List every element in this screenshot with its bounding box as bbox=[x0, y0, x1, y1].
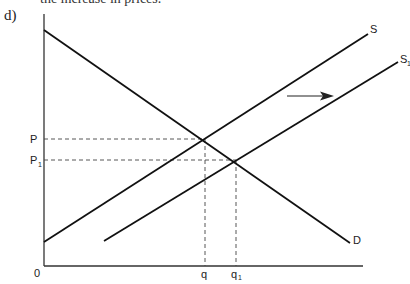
supply-s-label: S bbox=[370, 23, 377, 35]
supply-demand-diagram: 0 P P 1 q q 1 S S 1 D bbox=[0, 0, 410, 284]
quantity-q-label: q bbox=[201, 268, 207, 280]
quantity-q1-label: q bbox=[231, 268, 237, 280]
quantity-q1-subscript: 1 bbox=[238, 274, 242, 281]
shift-arrow-icon bbox=[287, 92, 334, 101]
price-p1-subscript: 1 bbox=[38, 161, 42, 168]
demand-curve bbox=[44, 30, 350, 243]
origin-label: 0 bbox=[34, 267, 40, 279]
price-p-label: P bbox=[30, 133, 37, 145]
price-p1-label: P bbox=[30, 154, 37, 166]
demand-d-label: D bbox=[353, 234, 361, 246]
supply-curve-s1 bbox=[104, 62, 398, 241]
supply-curve-s bbox=[44, 34, 368, 242]
